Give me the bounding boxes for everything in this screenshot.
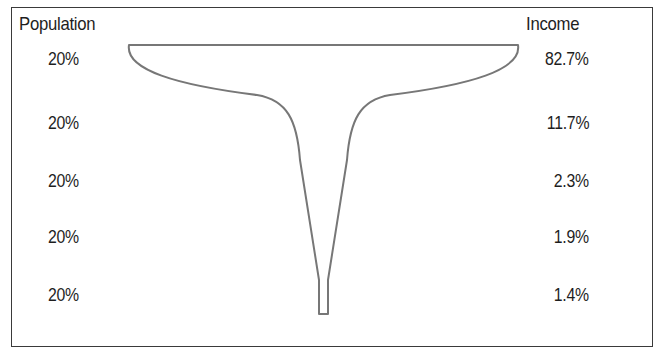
income-funnel-shape: [0, 0, 666, 356]
funnel-outline: [129, 45, 518, 314]
